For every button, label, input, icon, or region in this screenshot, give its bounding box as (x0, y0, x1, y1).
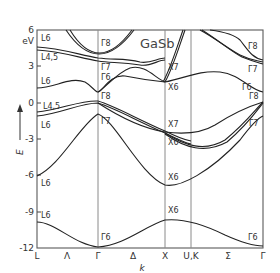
svg-text:-3: -3 (25, 134, 34, 144)
svg-text:L6: L6 (41, 211, 51, 220)
svg-text:6: 6 (28, 25, 34, 35)
svg-text:k: k (139, 263, 145, 273)
svg-text:L6: L6 (41, 77, 51, 86)
bands (37, 30, 263, 247)
plot-frame (37, 30, 263, 248)
svg-text:X6: X6 (168, 83, 179, 92)
svg-text:Λ: Λ (64, 251, 71, 261)
k-axis-labels: L Λ Γ Δ X U,K Σ Γ k (34, 251, 265, 273)
svg-text:-9: -9 (25, 207, 34, 217)
svg-text:E: E (15, 149, 25, 155)
gamma-left-labels: Γ8 Γ7 Γ6 Γ8 Γ7 Γ6 (101, 39, 111, 242)
svg-text:Γ7: Γ7 (248, 65, 258, 74)
svg-text:Γ7: Γ7 (101, 117, 111, 126)
svg-text:3: 3 (28, 61, 34, 71)
svg-text:eV: eV (22, 36, 35, 46)
svg-text:Γ8: Γ8 (101, 39, 111, 48)
svg-text:L4,5: L4,5 (43, 102, 60, 111)
svg-text:X7: X7 (168, 120, 179, 129)
x-point-labels: X7 X6 X7 X6 X6 X6 (168, 63, 179, 215)
svg-text:Γ8: Γ8 (248, 42, 258, 51)
svg-text:Γ8: Γ8 (101, 92, 111, 101)
svg-text:X7: X7 (168, 63, 179, 72)
svg-text:-12: -12 (19, 243, 34, 253)
energy-axis-arrow: E (15, 104, 25, 155)
svg-text:0: 0 (28, 98, 34, 108)
band-structure-diagram: 6 eV 3 0 -3 -6 -9 -12 E (0, 0, 280, 273)
svg-text:L6: L6 (41, 179, 51, 188)
svg-text:Γ6: Γ6 (242, 83, 252, 92)
svg-text:Γ6: Γ6 (101, 233, 111, 242)
svg-text:Γ8: Γ8 (249, 92, 259, 101)
svg-text:X6: X6 (168, 173, 179, 182)
svg-text:X: X (162, 251, 168, 261)
svg-text:Γ7: Γ7 (249, 119, 259, 128)
svg-text:U,K: U,K (183, 251, 199, 261)
svg-text:X6: X6 (168, 206, 179, 215)
svg-text:Γ6: Γ6 (101, 73, 111, 82)
svg-text:L: L (34, 251, 39, 261)
svg-text:X6: X6 (168, 138, 179, 147)
y-tick-labels: 6 eV 3 0 -3 -6 -9 -12 (19, 25, 35, 253)
svg-text:Δ: Δ (130, 251, 137, 261)
svg-text:Γ6: Γ6 (248, 233, 258, 242)
figure-title: GaSb (140, 36, 175, 51)
gamma-right-labels: Γ8 Γ7 Γ6 Γ8 Γ7 Γ6 (242, 42, 259, 242)
svg-text:L6: L6 (41, 34, 51, 43)
svg-text:Σ: Σ (225, 251, 231, 261)
svg-text:-6: -6 (25, 170, 34, 180)
svg-text:Γ7: Γ7 (101, 63, 111, 72)
svg-text:L4,5: L4,5 (41, 53, 58, 62)
l-point-labels: L6 L4,5 L6 L4,5 L6 L6 L6 (41, 34, 60, 220)
svg-text:L6: L6 (41, 121, 51, 130)
svg-text:Γ: Γ (95, 251, 100, 261)
svg-text:Γ: Γ (260, 251, 265, 261)
